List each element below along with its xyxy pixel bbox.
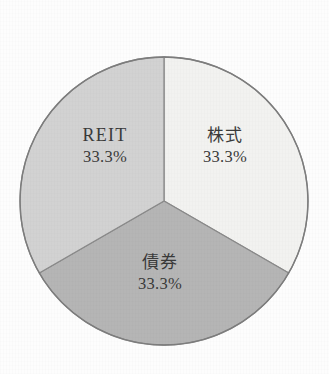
pie-label-bonds-name: 債券 [113, 253, 207, 273]
pie-label-reit-value: 33.3% [58, 147, 152, 166]
pie-label-stocks-name: 株式 [178, 126, 272, 146]
pie-label-bonds: 債券 33.3% [113, 253, 207, 294]
pie-chart-svg [0, 0, 329, 374]
pie-label-reit: REIT 33.3% [58, 125, 152, 167]
pie-label-stocks: 株式 33.3% [178, 126, 272, 167]
pie-label-bonds-value: 33.3% [113, 274, 207, 293]
pie-chart-figure: 株式 33.3% 債券 33.3% REIT 33.3% [0, 0, 329, 374]
pie-label-reit-name: REIT [58, 125, 152, 146]
pie-label-stocks-value: 33.3% [178, 147, 272, 166]
